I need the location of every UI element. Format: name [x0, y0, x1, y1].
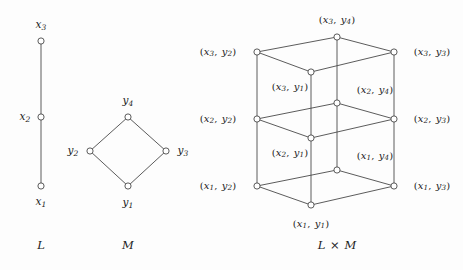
caption-L: L — [37, 238, 45, 252]
node-x2 — [38, 114, 44, 120]
edge-y3-y4 — [130, 119, 163, 149]
edge-x3y1-x3y2 — [260, 53, 308, 71]
edge-x2y3-x2y4 — [340, 104, 391, 118]
node-label-x3y3: (x3, y3) — [414, 47, 450, 58]
node-x2y3 — [391, 116, 397, 122]
edge-y1-y3 — [130, 153, 163, 184]
edge-x3y1-x3y3 — [314, 53, 391, 72]
hasse-diagram-figure: x1x2x3Ly1y2y3y4M(x1, y1)(x1, y2)(x1, y3)… — [0, 0, 463, 270]
node-label-x3y4: (x3, y4) — [319, 15, 355, 26]
node-x2y1 — [308, 135, 314, 141]
edge-y2-y4 — [92, 119, 125, 149]
node-y4 — [125, 114, 131, 120]
node-x1y4 — [334, 167, 340, 173]
edge-x2y2-x2y4 — [260, 104, 334, 119]
node-label-y3: y3 — [178, 145, 189, 157]
node-x3y4 — [334, 34, 340, 40]
node-label-x2y4: (x2, y4) — [357, 85, 393, 96]
node-x1y3 — [391, 183, 397, 189]
node-y3 — [163, 148, 169, 154]
edge-x1y1-x1y3 — [314, 187, 391, 205]
node-label-y2: y2 — [68, 145, 79, 157]
node-label-x2: x2 — [20, 111, 31, 123]
node-label-x1y1: (x1, y1) — [293, 219, 329, 230]
edge-x1y1-x1y2 — [260, 187, 308, 204]
node-x1 — [38, 183, 44, 189]
node-y1 — [125, 183, 131, 189]
edge-x3y2-x3y4 — [260, 38, 334, 52]
caption-M: M — [122, 238, 134, 252]
node-x2y4 — [334, 100, 340, 106]
node-x3y1 — [308, 69, 314, 75]
edge-x1y2-x1y4 — [260, 171, 334, 186]
node-x2y2 — [254, 116, 260, 122]
caption-LxM: L × M — [318, 238, 356, 252]
node-label-y1: y1 — [123, 197, 134, 209]
edge-x3y3-x3y4 — [340, 38, 391, 51]
node-label-x1y2: (x1, y2) — [200, 181, 236, 192]
node-y2 — [87, 148, 93, 154]
node-label-x1y4: (x1, y4) — [357, 151, 393, 162]
node-x1y2 — [254, 183, 260, 189]
edge-y1-y2 — [92, 153, 125, 184]
node-label-x3: x3 — [36, 19, 47, 31]
node-x3y2 — [254, 49, 260, 55]
node-label-x3y1: (x3, y1) — [272, 82, 308, 93]
edge-x2y1-x2y3 — [314, 120, 391, 138]
node-x3 — [38, 38, 44, 44]
node-label-x2y3: (x2, y3) — [414, 114, 450, 125]
edge-x1y3-x1y4 — [340, 171, 391, 185]
node-label-x2y1: (x2, y1) — [272, 148, 308, 159]
node-label-x1y3: (x1, y3) — [414, 181, 450, 192]
node-label-x1: x1 — [36, 196, 47, 208]
node-label-x3y2: (x3, y2) — [200, 47, 236, 58]
node-label-y4: y4 — [123, 95, 134, 107]
node-x1y1 — [308, 202, 314, 208]
node-label-x2y2: (x2, y2) — [200, 114, 236, 125]
node-x3y3 — [391, 49, 397, 55]
edges-layer — [0, 0, 463, 270]
edge-x2y1-x2y2 — [260, 120, 308, 137]
